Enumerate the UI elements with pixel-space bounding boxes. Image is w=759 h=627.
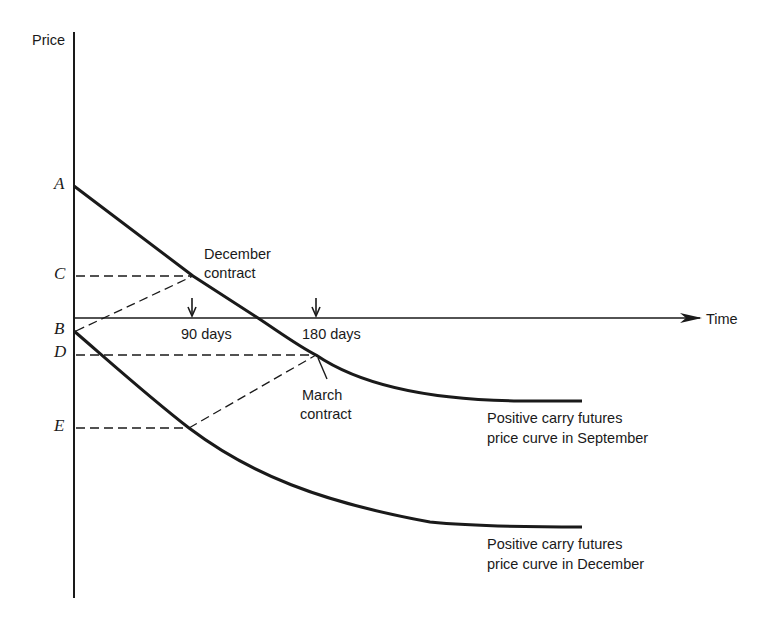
y-axis-label: Price (32, 31, 65, 49)
price-level-d: D (54, 342, 66, 362)
marker-180-days-arrow-icon (312, 298, 320, 316)
price-level-e: E (54, 416, 64, 436)
price-level-c: C (54, 264, 65, 284)
december-curve-label-line1: Positive carry futures (487, 535, 622, 553)
march-contract-label-line1: March (302, 386, 342, 404)
price-level-b: B (54, 319, 64, 339)
price-level-a: A (54, 174, 64, 194)
march-contract-label-line2: contract (300, 405, 352, 423)
september-price-curve (74, 186, 582, 401)
marker-90-days-arrow-icon (188, 298, 196, 316)
guide-e-to-march (189, 355, 316, 428)
marker-180-days-label: 180 days (302, 325, 361, 343)
marker-90-days-label: 90 days (181, 325, 232, 343)
diagram-canvas (0, 0, 759, 627)
x-axis-label: Time (706, 310, 738, 328)
december-contract-label-line2: contract (204, 264, 256, 282)
december-curve-label-line2: price curve in December (487, 555, 644, 573)
september-curve-label-line2: price curve in September (487, 429, 648, 447)
december-contract-label-line1: December (204, 245, 271, 263)
guide-b-to-december (76, 276, 193, 331)
dashed-guides (76, 276, 316, 428)
september-curve-label-line1: Positive carry futures (487, 409, 622, 427)
